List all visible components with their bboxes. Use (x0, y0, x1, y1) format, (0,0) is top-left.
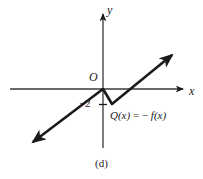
axis-label-x: x (189, 85, 194, 97)
graph-plot (0, 0, 203, 179)
axis-label-y: y (107, 4, 112, 16)
curve-segment-right-ray (112, 55, 172, 104)
curve-equation-equals: = (130, 109, 142, 121)
curve-segment-descending (103, 89, 112, 104)
curve-equation-label: Q(x) = − f(x) (110, 110, 166, 121)
figure-caption: (d) (0, 158, 203, 169)
y-tick-label-minus2: −2 (79, 98, 90, 109)
origin-label: O (89, 71, 98, 83)
curve-equation-lhs: Q(x) (110, 109, 130, 121)
figure-container: y x O −2 Q(x) = − f(x) (d) (0, 0, 203, 179)
curve-equation-rhs: f(x) (151, 109, 166, 121)
curve-segment-left-ray (33, 89, 103, 142)
curve-equation-minus: − (142, 109, 151, 121)
